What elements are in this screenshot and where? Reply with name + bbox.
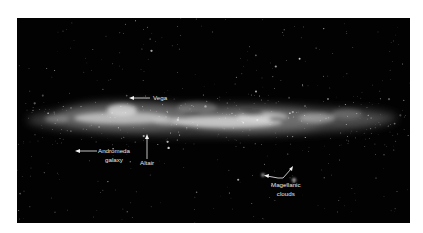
label-magellanic-clouds: Magellanic clouds — [271, 181, 301, 197]
label-altair: Altair — [140, 159, 154, 166]
label-andromeda-line1: Andromeda — [98, 147, 130, 154]
label-vega: Vega — [153, 94, 167, 101]
milky-way-image: Vega Andromeda galaxy Altair Magellanic … — [17, 18, 410, 223]
label-magellanic-line1: Magellanic — [271, 181, 301, 188]
label-magellanic-line2: clouds — [271, 190, 301, 197]
sky-background — [17, 18, 410, 223]
label-andromeda-galaxy: Andromeda galaxy — [98, 147, 130, 163]
label-andromeda-line2: galaxy — [98, 156, 130, 163]
